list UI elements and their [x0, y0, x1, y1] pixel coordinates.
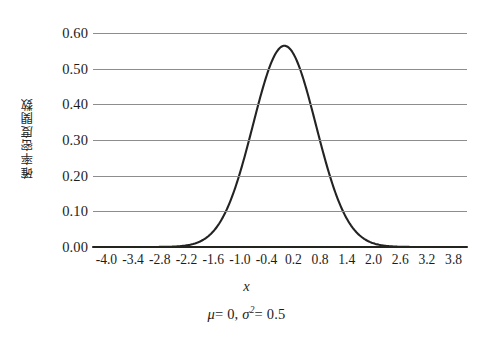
y-axis-tick-label: 0.40 — [38, 97, 88, 112]
gridline — [93, 176, 467, 177]
x-axis-tick-labels: -4.0-3.4-2.8-2.2-1.6-1.0-0.40.20.81.42.0… — [93, 252, 467, 272]
figure-caption: μ= 0, σ2= 0.5 — [0, 305, 493, 323]
density-curve-path — [93, 46, 467, 247]
y-axis-tick-label: 0.60 — [38, 26, 88, 41]
gridline — [93, 33, 467, 34]
figure-normal-distribution: 確率密度関数 0.600.500.400.300.200.100.00 -4.0… — [0, 0, 493, 340]
caption-sigma-value: = 0.5 — [255, 306, 286, 322]
x-axis-tick-label: 3.8 — [434, 252, 474, 268]
caption-sigma-symbol: σ — [242, 306, 249, 322]
y-axis-tick-label: 0.10 — [38, 204, 88, 219]
y-axis-tick-label: 0.00 — [38, 240, 88, 255]
y-axis-tick-label: 0.20 — [38, 169, 88, 184]
y-axis-tick-label: 0.50 — [38, 62, 88, 77]
y-axis-tick-label: 0.30 — [38, 133, 88, 148]
caption-mu-symbol: μ — [207, 306, 214, 322]
y-axis-title: 確率密度関数 — [18, 78, 38, 198]
caption-mu-value: = 0, — [215, 306, 238, 322]
plot-area — [93, 33, 467, 247]
gridline — [93, 140, 467, 141]
x-axis-title: x — [0, 278, 493, 295]
gridline — [93, 211, 467, 212]
y-axis-title-label: 確率密度関数 — [22, 97, 35, 179]
x-axis-line — [93, 246, 467, 248]
gridline — [93, 104, 467, 105]
gridline — [93, 69, 467, 70]
